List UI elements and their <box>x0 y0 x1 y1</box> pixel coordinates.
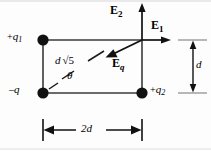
diagram-canvas <box>0 0 211 151</box>
angle-label-theta: θ <box>67 70 72 81</box>
dimension-label-d: d <box>196 59 202 70</box>
charge-dot-q1 <box>37 34 48 45</box>
charge-dot-q2 <box>136 87 147 98</box>
diagonal-prefix: d <box>55 54 61 66</box>
charge-label-q1: +q1 <box>7 31 22 44</box>
vector-symbol-E2: E <box>110 3 118 17</box>
vector-subscript-Eq: q <box>120 62 125 72</box>
vector-symbol-E1: E <box>151 18 159 32</box>
vector-subscript-E2: 2 <box>118 9 123 19</box>
diagonal-radical: √5 <box>63 54 75 66</box>
vector-label-E1: E1 <box>151 19 164 34</box>
physics-diagram-figure: +q1 –q +q2 E2 E1 Eq d√5 θ d 2d <box>0 0 211 151</box>
vector-symbol-Eq: E <box>112 56 120 70</box>
charge-dot-q <box>37 87 48 98</box>
dimension-d-arrowhead-down <box>190 84 197 93</box>
dimension-label-2d: 2d <box>81 123 92 134</box>
vector-label-Eq: Eq <box>112 57 125 72</box>
dimension-d-arrowhead-up <box>190 41 197 50</box>
diagonal-leader-origin-tick <box>49 83 58 89</box>
vector-E1-arrowhead <box>161 36 171 43</box>
charge-subscript-q1: 1 <box>18 35 22 44</box>
charge-label-q2: +q2 <box>150 84 165 97</box>
vector-Eq-shaft <box>113 40 142 54</box>
charge-label-q: –q <box>9 84 20 95</box>
diagonal-length-label: d√5 <box>55 55 74 66</box>
vector-E2-arrowhead <box>138 3 145 12</box>
dimension-2d-arrowhead-left <box>44 126 55 135</box>
diagonal-leader-upper <box>88 51 104 61</box>
vector-subscript-E1: 1 <box>159 24 164 34</box>
charge-symbol-q: q <box>14 83 20 95</box>
dimension-2d-arrowhead-right <box>131 126 142 135</box>
charge-subscript-q2: 2 <box>161 88 165 97</box>
vector-label-E2: E2 <box>110 4 123 19</box>
